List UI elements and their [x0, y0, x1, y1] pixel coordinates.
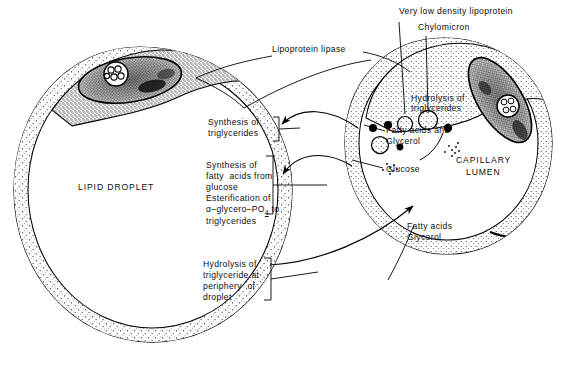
label-fatty-acids-and-glycerol-line2: Glycerol	[386, 136, 420, 147]
text-synthesis-triglycerides-line2: triglycerides	[208, 128, 258, 139]
text-hydrolysis-periphery-line3: periphery of	[203, 281, 255, 292]
text-synthesis-fatty-acids-line3: glucose	[206, 182, 238, 193]
text-synthesis-fatty-acids-line2: fatty acids from	[206, 171, 273, 182]
text-hydrolysis-periphery-line1: Hydrolysis of	[203, 259, 257, 270]
label-very-low-density-lipoprotein: Very low density lipoprotein	[399, 6, 513, 17]
label-lipoprotein-lipase: Lipoprotein lipase	[272, 44, 346, 55]
label-hydrolysis-of-triglycerides-line1: Hydrolysis of	[411, 93, 465, 104]
endothelial-nucleolus	[497, 95, 519, 117]
text-synthesis-triglycerides-line1: Synthesis of	[208, 117, 259, 128]
label-fatty-acids-line1: Fatty acids	[407, 221, 452, 232]
label-lipid-droplet: LIPID DROPLET	[78, 182, 154, 193]
adipocyte-nucleolus	[104, 62, 128, 86]
label-chylomicron: Chylomicron	[418, 22, 470, 33]
text-synthesis-fatty-acids-line4: Esterification of	[206, 193, 271, 204]
text-hydrolysis-periphery-line2: triglyceride at	[203, 270, 259, 281]
formula-suffix: to	[269, 204, 280, 214]
label-fatty-acids-glycerol-line2: Glycerol	[407, 232, 441, 243]
label-fatty-acids-and-glycerol-line1: Fatty acids and	[386, 125, 450, 136]
text-hydrolysis-periphery-line4: droplet	[203, 292, 232, 303]
connector-hydrolysis-periphery	[271, 272, 318, 279]
text-synthesis-fatty-acids-line1: Synthesis of	[206, 160, 257, 171]
label-glucose: Glucose	[386, 164, 420, 175]
connector-synthesis-triglycerides	[279, 128, 300, 129]
label-capillary-lumen-line1: CAPILLARY	[456, 155, 511, 166]
text-synthesis-fatty-acids-line6: triglycerides	[206, 216, 256, 227]
figure-canvas: Lipoprotein lipase Very low density lipo…	[0, 0, 562, 376]
label-hydrolysis-of-triglycerides-line2: triglycerides	[411, 103, 461, 114]
formula-prefix: α–glycero–PO	[206, 204, 265, 214]
arrow-glucose-into-droplet	[283, 156, 352, 174]
label-capillary-lumen-line2: LUMEN	[466, 167, 501, 178]
